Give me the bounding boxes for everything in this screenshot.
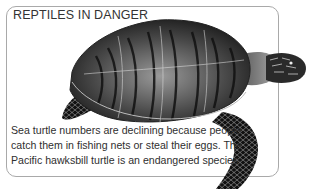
panel-heading: REPTILES IN DANGER bbox=[13, 8, 148, 22]
caption-line: Pacific hawksbill turtle is an endangere… bbox=[11, 153, 226, 168]
caption-line: catch them in fishing nets or steal thei… bbox=[11, 138, 226, 153]
panel-caption: Sea turtle numbers are declining because… bbox=[11, 123, 226, 168]
caption-line: Sea turtle numbers are declining because… bbox=[11, 123, 226, 138]
